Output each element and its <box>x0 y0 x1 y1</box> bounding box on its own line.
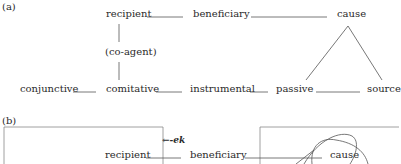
curve-loop-1 <box>312 139 368 164</box>
edge-cause-source <box>348 26 382 80</box>
box-left <box>4 127 163 164</box>
edge-cause-passive <box>306 26 348 80</box>
box-right <box>260 127 399 164</box>
